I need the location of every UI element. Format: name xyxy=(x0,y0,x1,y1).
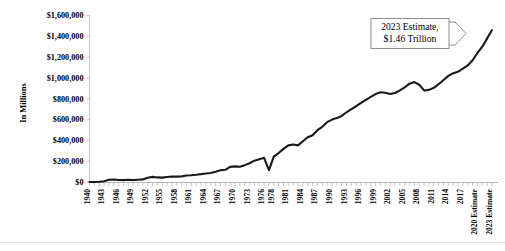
y-axis-tick-label: $1,600,000 xyxy=(47,11,84,20)
x-axis-tick-label: 1973 xyxy=(243,189,252,204)
x-axis-tick-label: 2005 xyxy=(398,189,407,204)
y-axis-tick-labels: $0$200,000$400,000$600,000$800,000$1,000… xyxy=(47,11,84,187)
x-axis-tick-label: 1981 xyxy=(281,189,290,204)
x-axis-tick-label: 1967 xyxy=(213,189,222,204)
y-axis-tick-label: $800,000 xyxy=(53,95,84,104)
x-axis-tick-label: 1993 xyxy=(340,189,349,204)
y-axis-tick-label: $400,000 xyxy=(53,136,84,145)
x-axis-ticks xyxy=(90,183,493,187)
y-axis-tick-label: $0 xyxy=(75,178,83,187)
callout-line-2: $1.46 Trillion xyxy=(384,33,437,44)
x-axis-tick-label: 1961 xyxy=(184,189,193,204)
x-axis-tick-label: 1990 xyxy=(325,189,334,204)
x-axis-tick-label: 2020 Estimate xyxy=(470,188,479,234)
x-axis-tick-label: 1964 xyxy=(199,189,208,204)
x-axis-tick-label: 1987 xyxy=(310,189,319,204)
y-axis-tick-label: $600,000 xyxy=(53,115,84,124)
x-axis-tick-label: 1999 xyxy=(369,189,378,204)
callout-line-1: 2023 Estimate, xyxy=(381,21,439,32)
y-axis-tick-label: $1,000,000 xyxy=(47,74,84,83)
y-axis-tick-label: $1,200,000 xyxy=(47,53,84,62)
x-axis-tick-label: 2011 xyxy=(427,189,436,204)
y-axis-tick-label: $200,000 xyxy=(53,157,84,166)
data-series-line xyxy=(90,30,493,182)
chart-container: $0$200,000$400,000$600,000$800,000$1,000… xyxy=(0,0,505,251)
y-axis-tick-label: $1,400,000 xyxy=(47,32,84,41)
x-axis-tick-label: 2017 xyxy=(456,189,465,204)
x-axis-tick-label: 1940 xyxy=(83,189,92,204)
x-axis-tick-label: 1976 xyxy=(257,189,266,204)
line-chart: $0$200,000$400,000$600,000$800,000$1,000… xyxy=(0,0,505,251)
x-axis-tick-label: 1958 xyxy=(170,189,179,204)
x-axis-tick-label: 1952 xyxy=(141,189,150,204)
x-axis-tick-label: 1946 xyxy=(112,189,121,204)
x-axis-tick-labels: 1940194319461949195219551958196119641967… xyxy=(83,188,495,234)
x-axis-tick-label: 1996 xyxy=(354,189,363,204)
x-axis-tick-label: 1955 xyxy=(155,189,164,204)
x-axis-tick-label: 2023 Estimate xyxy=(485,188,494,234)
x-axis-tick-label: 1949 xyxy=(126,189,135,204)
x-axis-tick-label: 1984 xyxy=(296,189,305,204)
x-axis-tick-label: 1970 xyxy=(228,189,237,204)
x-axis-tick-label: 1978 xyxy=(267,189,276,204)
x-axis-tick-label: 2002 xyxy=(383,189,392,204)
x-axis-tick-label: 1943 xyxy=(97,189,106,204)
x-axis-tick-label: 2008 xyxy=(412,189,421,204)
bottom-frame-divider xyxy=(0,242,505,243)
y-axis-title: In Millions xyxy=(19,83,28,123)
x-axis-tick-label: 2014 xyxy=(441,189,450,204)
